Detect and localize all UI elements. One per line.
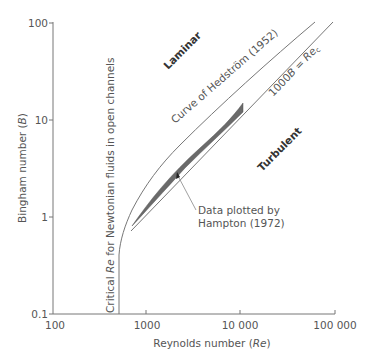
x-tick-10000: 10 000 [222,319,259,331]
chart: 100 10 1 0.1 100 1000 10 000 100 000 Rey… [0,0,372,362]
x-tick-1000: 1000 [134,319,161,331]
hampton-label-line2: Hampton (1972) [198,217,285,229]
line-1000b-label: 1000B = Rec [266,42,323,100]
laminar-label: Laminar [161,28,204,71]
x-tick-100000: 100 000 [313,319,356,331]
x-axis-label: Reynolds number (Re) [153,337,270,349]
y-tick-10: 10 [35,114,48,126]
y-axis: 100 10 1 0.1 [28,17,53,320]
critical-re-label: Critical Re for Newtonian fluids in open… [104,57,116,313]
x-axis: 100 1000 10 000 100 000 [45,310,357,331]
x-tick-100: 100 [45,319,65,331]
y-axis-label: Bingham number (B) [16,113,28,223]
y-tick-100: 100 [28,17,48,29]
turbulent-label: Turbulent [255,125,304,174]
hedstrom-curve [119,22,315,314]
hampton-label-line1: Data plotted by [198,204,280,216]
data-pointer-line [178,176,196,210]
y-tick-1: 1 [41,211,48,223]
